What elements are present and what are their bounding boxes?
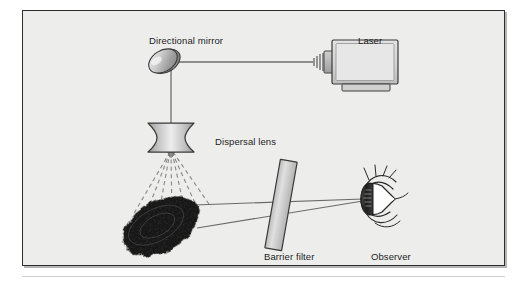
specimen-texture [112, 184, 210, 267]
label-observer: Observer [371, 251, 411, 262]
laser-emitter-fins [314, 53, 323, 71]
eyelash-2 [375, 165, 376, 176]
dispersal-lens[interactable] [148, 123, 194, 152]
eyelash-3 [383, 166, 387, 176]
eye-iris [361, 183, 373, 215]
eye-outer-canthus [395, 193, 408, 199]
laser-body-panel [336, 44, 394, 81]
figure-frame: Directional mirror Laser Dispersal lens … [22, 10, 505, 266]
dispersal-lens-body [148, 123, 194, 152]
label-directional-mirror: Directional mirror [149, 35, 223, 46]
observer-eye[interactable] [361, 165, 408, 227]
mirror-face [144, 44, 181, 78]
eyelash-4 [389, 170, 396, 178]
page-rule [22, 276, 505, 277]
figure-page: Directional mirror Laser Dispersal lens … [0, 0, 528, 281]
laser[interactable] [314, 40, 398, 91]
fingerprint-specimen[interactable] [112, 184, 210, 267]
laser-base [342, 84, 390, 91]
label-barrier-filter: Barrier filter [264, 251, 315, 262]
label-laser: Laser [358, 35, 382, 46]
label-dispersal-lens: Dispersal lens [215, 136, 276, 147]
directional-mirror[interactable] [144, 43, 184, 80]
barrier-filter[interactable] [265, 159, 297, 251]
barrier-filter-plate [265, 159, 297, 251]
eyelash-1 [364, 168, 369, 180]
